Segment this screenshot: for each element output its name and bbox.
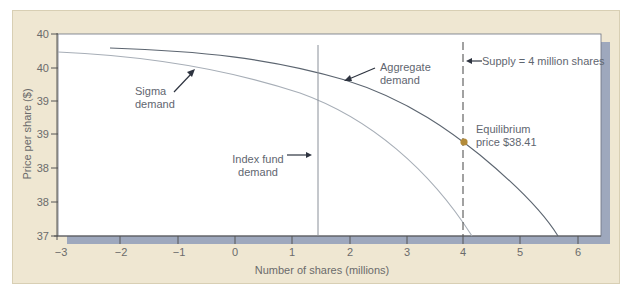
- supply-label: Supply = 4 million shares: [482, 55, 605, 67]
- x-tick-label: 6: [575, 246, 581, 258]
- x-tick-label: 2: [347, 246, 353, 258]
- aggregate-label-line2: demand: [380, 74, 420, 86]
- sigma-label-line1: Sigma: [135, 85, 167, 97]
- x-tick-label: −3: [55, 246, 68, 258]
- x-tick-label: 3: [404, 246, 410, 258]
- x-tick-labels: −3 −2 −1 0 1 2 3 4 5 6: [55, 246, 581, 258]
- x-tick-label: 5: [517, 246, 523, 258]
- x-tick-label: −2: [115, 246, 128, 258]
- y-tick-label: 38: [37, 196, 49, 208]
- sigma-label-line2: demand: [135, 98, 175, 110]
- y-tick-label: 39: [37, 128, 49, 140]
- y-tick-labels: 40 40 39 39 38 38 37: [37, 28, 49, 242]
- y-axis-title: Price per share ($): [21, 88, 33, 179]
- y-tick-label: 38: [37, 162, 49, 174]
- x-tick-label: 0: [232, 246, 238, 258]
- equilibrium-label-line1: Equilibrium: [476, 123, 530, 135]
- supply-annotation: Supply = 4 million shares: [466, 55, 605, 67]
- aggregate-label-line1: Aggregate: [380, 61, 431, 73]
- y-tick-label: 39: [37, 95, 49, 107]
- x-tick-label: 1: [289, 246, 295, 258]
- chart: 40 40 39 39 38 38 37 −3 −2 −1 0 1 2 3 4 …: [0, 0, 628, 291]
- index-label-line2: demand: [238, 166, 278, 178]
- index-label-line1: Index fund: [232, 153, 283, 165]
- x-tick-label: −1: [173, 246, 186, 258]
- y-tick-label: 37: [37, 230, 49, 242]
- x-tick-label: 4: [460, 246, 466, 258]
- equilibrium-point: [460, 138, 467, 145]
- x-axis-title: Number of shares (millions): [255, 264, 389, 276]
- y-tick-label: 40: [37, 28, 49, 40]
- y-tick-label: 40: [37, 62, 49, 74]
- equilibrium-annotation: Equilibrium price $38.41: [476, 123, 537, 148]
- equilibrium-label-line2: price $38.41: [476, 136, 537, 148]
